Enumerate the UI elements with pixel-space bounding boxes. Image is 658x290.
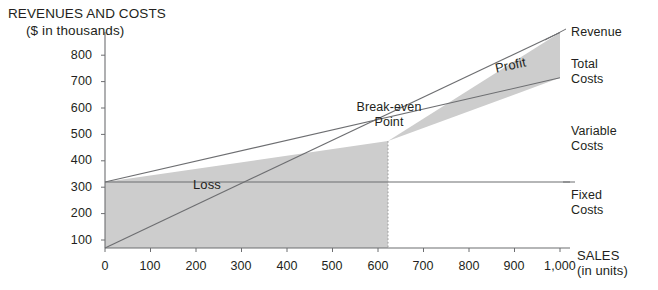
y-axis-subtitle: ($ in thousands) bbox=[26, 23, 124, 38]
y-tick-label: 600 bbox=[58, 101, 92, 115]
x-tick-label: 400 bbox=[265, 259, 309, 273]
x-tick-label: 0 bbox=[83, 259, 127, 273]
x-tick-label: 200 bbox=[174, 259, 218, 273]
series-label-total-costs: Total Costs bbox=[571, 57, 603, 87]
x-tick-label: 900 bbox=[492, 259, 536, 273]
x-axis-subtitle: (in units) bbox=[577, 264, 628, 279]
x-tick-label: 800 bbox=[447, 259, 491, 273]
x-tick-label: 1,000 bbox=[538, 259, 582, 273]
y-axis-title: REVENUES AND COSTS bbox=[8, 6, 166, 21]
annotation-loss: Loss bbox=[193, 178, 221, 193]
breakeven-chart: REVENUES AND COSTS ($ in thousands) 800 … bbox=[0, 0, 658, 290]
y-tick-label: 500 bbox=[58, 127, 92, 141]
y-tick-label: 300 bbox=[58, 180, 92, 194]
series-label-variable-costs: Variable Costs bbox=[571, 124, 617, 154]
series-label-fixed-costs: Fixed Costs bbox=[571, 188, 603, 218]
loss-region bbox=[105, 141, 388, 248]
y-tick-label: 400 bbox=[58, 153, 92, 167]
chart-plot-area bbox=[0, 0, 658, 290]
x-tick-label: 100 bbox=[128, 259, 172, 273]
y-tick-label: 200 bbox=[58, 206, 92, 220]
y-tick-label: 700 bbox=[58, 74, 92, 88]
y-tick-marks bbox=[101, 55, 105, 240]
x-tick-label: 300 bbox=[219, 259, 263, 273]
x-tick-label: 700 bbox=[401, 259, 445, 273]
x-tick-label: 600 bbox=[356, 259, 400, 273]
annotation-breakeven-point: Break-even Point bbox=[341, 100, 437, 130]
y-tick-label: 100 bbox=[58, 233, 92, 247]
series-label-revenue: Revenue bbox=[571, 25, 622, 39]
x-tick-label: 500 bbox=[310, 259, 354, 273]
x-axis-title: SALES bbox=[577, 249, 619, 264]
x-tick-marks bbox=[105, 248, 560, 252]
y-tick-label: 800 bbox=[58, 48, 92, 62]
